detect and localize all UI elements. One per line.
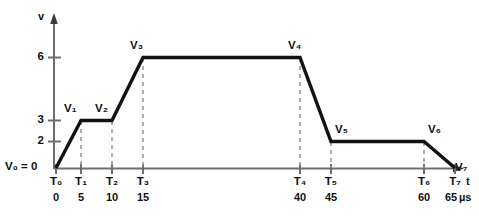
point-label-v6: V₆ [428, 124, 441, 136]
x-tick-value-5: 5 [69, 192, 93, 203]
x-tick-name-t1: T₁ [69, 176, 93, 188]
x-tick-value-65: 65 [441, 192, 461, 203]
x-tick-name-t6: T₆ [412, 176, 436, 188]
y-axis [50, 13, 58, 169]
x-tick-name-t5: T₅ [319, 176, 343, 188]
point-label-v5: V₅ [335, 124, 348, 136]
x-tick-name-t3: T₃ [131, 176, 155, 188]
origin-label-text: V₀ = 0 [5, 160, 37, 172]
x-tick-value-0: 0 [44, 192, 68, 203]
x-tick-name-t7: T₇ [443, 176, 467, 188]
point-label-v3: V₃ [130, 40, 143, 52]
x-tick-name-t4: T₄ [288, 176, 312, 188]
waveform-chart: v 6 3 2 V₀ = 0 t T₀ T₁ T₂ T₃ T₄ T₅ T₆ T₇… [0, 0, 479, 220]
x-tick-value-45: 45 [319, 192, 343, 203]
dashed-guides [81, 58, 424, 168]
y-axis-label: v [38, 11, 44, 22]
origin-label: V₀ = 0 [5, 161, 37, 173]
x-unit-label: µs [459, 192, 471, 203]
point-label-v1: V₁ [64, 103, 76, 115]
point-label-v7: V₇ [455, 162, 467, 174]
point-label-v2: V₂ [95, 103, 108, 115]
x-axis [54, 165, 464, 172]
point-label-v4: V₄ [288, 40, 301, 52]
x-tick-name-t0: T₀ [44, 176, 68, 188]
x-tick-value-10: 10 [100, 192, 124, 203]
y-tick-label-2: 2 [28, 135, 44, 147]
x-tick-value-60: 60 [412, 192, 436, 203]
x-tick-value-15: 15 [131, 192, 155, 203]
x-tick-value-40: 40 [288, 192, 312, 203]
y-tick-label-6: 6 [28, 51, 44, 63]
y-tick-label-3: 3 [28, 114, 44, 126]
waveform-trace [56, 58, 455, 169]
x-tick-name-t2: T₂ [100, 176, 124, 188]
